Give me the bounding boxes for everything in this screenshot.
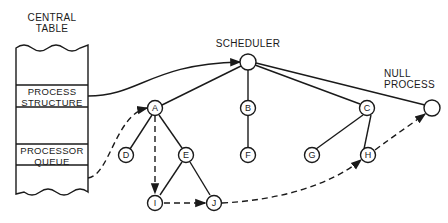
node-e-label: E xyxy=(176,150,196,160)
null-process-node xyxy=(424,100,440,116)
node-g-label: G xyxy=(302,150,322,160)
null-process-line2: PROCESS xyxy=(384,79,435,90)
node-a-label: A xyxy=(145,103,165,113)
node-c-label: C xyxy=(357,103,377,113)
null-process-label: NULLPROCESS xyxy=(384,68,444,90)
node-b-label: B xyxy=(238,103,258,113)
central-table-title-line2: TABLE xyxy=(36,23,68,34)
scheduler-node xyxy=(240,54,256,70)
processor-queue-line2: QUEUE xyxy=(34,156,69,167)
node-f-label: F xyxy=(238,150,258,160)
central-table-title-line1: CENTRAL xyxy=(28,12,77,23)
scheduler-label: SCHEDULER xyxy=(213,38,283,49)
processor-queue-line1: PROCESSOR xyxy=(20,145,83,156)
processor-queue-row: PROCESSORQUEUE xyxy=(16,145,88,167)
node-i-label: I xyxy=(145,198,165,208)
central-table-title: CENTRALTABLE xyxy=(16,12,88,34)
process-structure-row: PROCESSSTRUCTURE xyxy=(16,86,88,108)
node-d-label: D xyxy=(116,150,136,160)
node-h-label: H xyxy=(358,150,378,160)
process-structure-line1: PROCESS xyxy=(28,86,77,97)
process-structure-line2: STRUCTURE xyxy=(21,97,82,108)
node-j-label: J xyxy=(204,198,224,208)
null-process-line1: NULL xyxy=(384,68,411,79)
central-table-outline xyxy=(16,45,88,195)
